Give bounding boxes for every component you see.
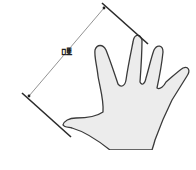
- hand-span-diagram: 뼘: [0, 0, 196, 170]
- span-label: 뼘: [61, 47, 71, 56]
- hand-outline: [63, 35, 189, 150]
- top-boundary-line: [102, 3, 148, 44]
- dimension-arrow-top: [103, 7, 106, 10]
- dimension-arrow-bottom: [28, 95, 31, 98]
- bottom-boundary-line: [22, 93, 71, 137]
